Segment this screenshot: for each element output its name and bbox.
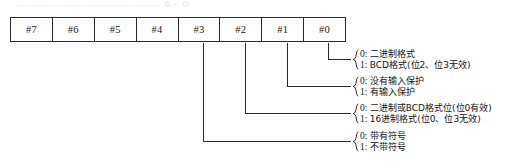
- annotation-text: 没有输入保护: [370, 76, 424, 86]
- annotation-group-bit0: 0: 二进制格式 1: BCD格式(位2、位3无效): [352, 49, 470, 70]
- curly-brace-icon: [352, 103, 359, 124]
- annotation-row: 1: 不带符号: [360, 142, 406, 153]
- leader-line-bit0: [329, 43, 352, 60]
- annotation-text: 二进制格式: [370, 49, 415, 59]
- annotation-text: 16进制格式(位0、位3无效): [370, 114, 481, 124]
- leader-line-bit2: [246, 43, 352, 114]
- annotation-lines: 0: 二进制格式 1: BCD格式(位2、位3无效): [360, 49, 470, 70]
- diagram-canvas: — —— — —— ————— ——— ⊙ ⌐ ⊙ #7 #6 #5 #4 #3…: [0, 0, 518, 165]
- annotation-group-bit1: 0: 没有输入保护 1: 有输入保护: [352, 76, 424, 97]
- annotation-lines: 0: 二进制或BCD格式位(位0有效) 1: 16进制格式(位0、位3无效): [360, 103, 492, 124]
- annotation-key: 0:: [360, 131, 367, 141]
- annotation-group-bit3: 0: 带有符号 1: 不带符号: [352, 131, 406, 152]
- annotation-lines: 0: 没有输入保护 1: 有输入保护: [360, 76, 424, 97]
- annotation-row: 1: 16进制格式(位0、位3无效): [360, 114, 492, 125]
- curly-brace-icon: [352, 131, 359, 152]
- curly-brace-icon: [352, 76, 359, 97]
- annotation-row: 1: BCD格式(位2、位3无效): [360, 60, 470, 71]
- annotation-row: 0: 二进制格式: [360, 49, 470, 60]
- annotation-row: 0: 没有输入保护: [360, 76, 424, 87]
- annotation-row: 1: 有输入保护: [360, 87, 424, 98]
- annotation-lines: 0: 带有符号 1: 不带符号: [360, 131, 406, 152]
- annotation-text: 不带符号: [370, 142, 406, 152]
- annotation-row: 0: 二进制或BCD格式位(位0有效): [360, 103, 492, 114]
- annotation-group-bit2: 0: 二进制或BCD格式位(位0有效) 1: 16进制格式(位0、位3无效): [352, 103, 492, 124]
- annotation-text: 带有符号: [370, 131, 406, 141]
- leader-lines: [0, 0, 518, 165]
- annotation-text: 有输入保护: [370, 87, 415, 97]
- annotation-key: 1:: [360, 114, 367, 124]
- annotation-key: 0:: [360, 76, 367, 86]
- annotation-key: 1:: [360, 87, 367, 97]
- curly-brace-icon: [352, 49, 359, 70]
- annotation-key: 1:: [360, 142, 367, 152]
- annotation-text: BCD格式(位2、位3无效): [370, 60, 471, 70]
- annotation-key: 0:: [360, 49, 367, 59]
- annotation-key: 0:: [360, 103, 367, 113]
- annotation-key: 1:: [360, 60, 367, 70]
- annotation-text: 二进制或BCD格式位(位0有效): [370, 103, 492, 113]
- annotation-row: 0: 带有符号: [360, 131, 406, 142]
- leader-line-bit1: [288, 43, 352, 87]
